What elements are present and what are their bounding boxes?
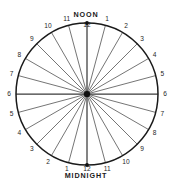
- clock-spoke: [87, 33, 123, 94]
- hour-label-upper-left-10: 10: [44, 23, 51, 30]
- hour-label-lower-right-11: 11: [104, 166, 111, 173]
- noon-label: NOON: [0, 10, 172, 19]
- hour-label-lower-left-5: 5: [10, 111, 14, 118]
- hour-label-lower-left-3: 3: [30, 146, 34, 153]
- clock-spoke: [52, 94, 88, 155]
- hour-label-upper-right-3: 3: [140, 36, 144, 43]
- clock-spoke: [37, 94, 87, 144]
- hour-label-bottom-12: 12: [83, 166, 90, 173]
- hour-label-upper-left-11: 11: [63, 15, 70, 22]
- clock-spoke: [87, 94, 105, 163]
- clock-spoke: [26, 59, 87, 95]
- hour-label-upper-left-8: 8: [18, 52, 22, 59]
- hour-label-lower-right-9: 9: [140, 146, 144, 153]
- clock-spoke: [69, 25, 87, 94]
- hour-label-upper-left-9: 9: [30, 36, 34, 43]
- hour-label-upper-right-4: 4: [153, 52, 157, 59]
- hour-label-right-6: 6: [163, 91, 167, 98]
- clock-spoke: [87, 25, 105, 94]
- hour-label-lower-left-4: 4: [18, 130, 22, 137]
- hour-label-lower-right-10: 10: [122, 158, 129, 165]
- clock-spoke: [18, 76, 87, 94]
- clock-spoke: [37, 44, 87, 94]
- clock-spoke: [26, 94, 87, 130]
- midnight-label: MIDNIGHT: [0, 171, 172, 180]
- clock-spoke: [18, 94, 87, 112]
- hour-label-left-6: 6: [7, 91, 11, 98]
- clock-spoke: [87, 59, 148, 95]
- hour-label-upper-right-1: 1: [105, 15, 109, 22]
- clock-spoke: [69, 94, 87, 163]
- clock-spoke: [52, 33, 88, 94]
- hour-label-upper-left-7: 7: [10, 71, 14, 78]
- clock-spoke: [87, 94, 148, 130]
- clock-spoke: [87, 44, 137, 94]
- hour-label-top-12: 12: [83, 22, 90, 29]
- hour-label-lower-right-7: 7: [160, 111, 164, 118]
- clock-spoke: [87, 94, 123, 155]
- hour-label-lower-left-2: 2: [46, 158, 50, 165]
- clock-spoke: [87, 94, 137, 144]
- hour-label-upper-right-2: 2: [124, 23, 128, 30]
- hour-label-lower-right-8: 8: [153, 130, 157, 137]
- clock-spoke: [87, 94, 156, 112]
- hour-label-upper-right-5: 5: [160, 71, 164, 78]
- clock-spoke: [87, 76, 156, 94]
- clock-face-diagram: NOON MIDNIGHT 12123456789101112123456789…: [0, 0, 172, 187]
- hour-label-lower-left-1: 1: [65, 166, 69, 173]
- clock-center-hub: [84, 91, 90, 97]
